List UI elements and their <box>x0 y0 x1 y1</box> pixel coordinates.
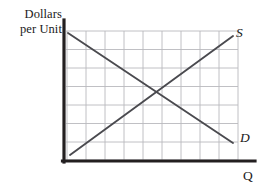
curves <box>68 33 233 155</box>
y-axis-label: Dollars per Unit <box>8 7 62 36</box>
supply-demand-figure: Dollars per Unit Q S D <box>0 0 276 193</box>
y-axis-label-line1: Dollars <box>8 7 62 22</box>
x-axis-label: Q <box>243 168 253 183</box>
supply-curve <box>70 36 233 155</box>
supply-curve-label: S <box>236 26 243 40</box>
y-axis-label-line2: per Unit <box>8 22 62 37</box>
demand-curve-label: D <box>240 131 250 145</box>
